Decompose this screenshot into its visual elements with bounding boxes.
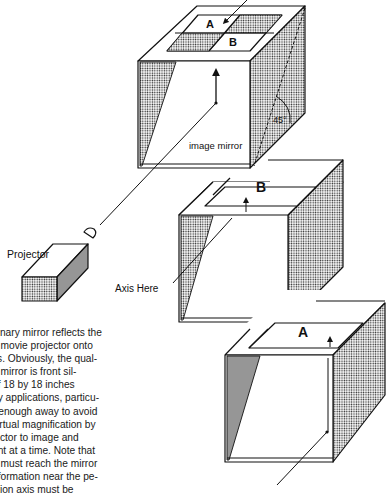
quadrant-label-a: A bbox=[206, 18, 214, 30]
caption-line: ant at a time. Note that bbox=[0, 444, 120, 457]
bottom-box-label-a: A bbox=[298, 324, 308, 340]
quadrant-label-b: B bbox=[229, 36, 237, 48]
caption-line: n movie projector onto bbox=[0, 339, 120, 352]
image-mirror-label: image mirror bbox=[189, 140, 242, 151]
caption-line: virtual magnification by bbox=[0, 418, 120, 431]
caption-line: jector to image and bbox=[0, 431, 120, 444]
caption-line: dinary mirror reflects the bbox=[0, 326, 120, 339]
caption-line: n must reach the mirror bbox=[0, 457, 120, 470]
caption-line: ction axis must be bbox=[0, 483, 120, 496]
projector bbox=[22, 228, 96, 301]
angle-label: 45° bbox=[273, 115, 287, 125]
axis-here-label: Axis Here bbox=[115, 283, 159, 294]
caption-line: eformation near the pe- bbox=[0, 470, 120, 483]
middle-box-label-b: B bbox=[256, 179, 266, 195]
caption-line: of 18 by 18 inches bbox=[0, 378, 120, 391]
caption-line: e mirror is front sil- bbox=[0, 365, 120, 378]
caption-line: ss. Obviously, the qual- bbox=[0, 352, 120, 365]
projector-label: Projector bbox=[7, 248, 50, 260]
caption-line: r enough away to avoid bbox=[0, 405, 120, 418]
caption-line: ny applications, particu- bbox=[0, 391, 120, 404]
caption-text: dinary mirror reflects the n movie proje… bbox=[0, 326, 120, 496]
